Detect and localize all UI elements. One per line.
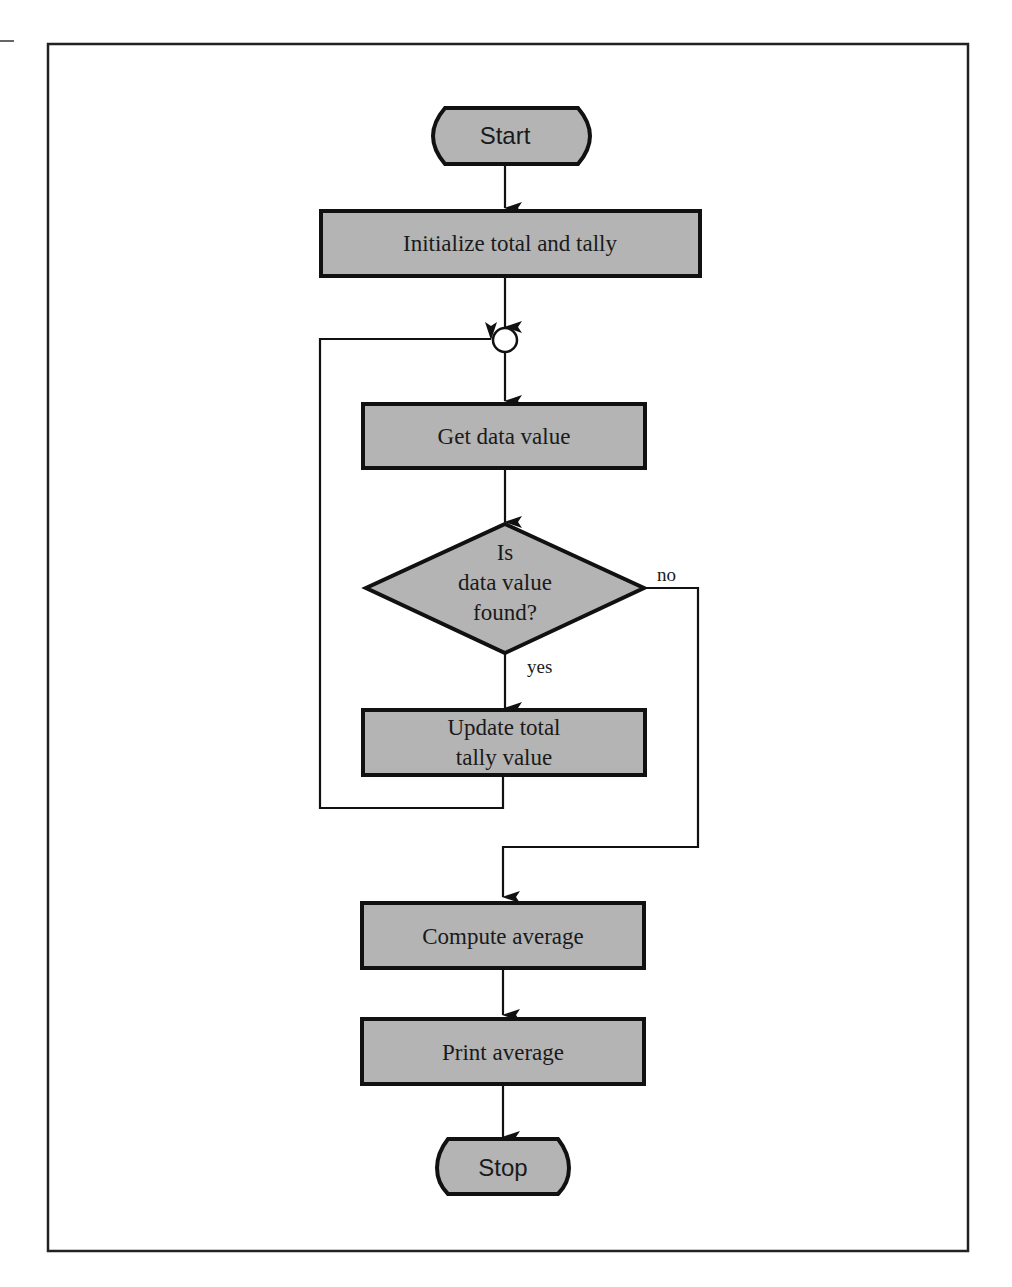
no-label: no — [657, 564, 676, 585]
start-label: Start — [480, 122, 531, 149]
decision-data-found: Is data value found? — [366, 524, 644, 653]
update-line-1: Update total — [447, 715, 560, 740]
decision-line-3: found? — [473, 600, 537, 625]
get-data-label: Get data value — [438, 424, 571, 449]
update-line-2: tally value — [456, 745, 552, 770]
stop-terminal: Stop — [437, 1139, 569, 1194]
compute-average-process: Compute average — [362, 903, 644, 968]
flowchart-diagram: Start Initialize total and tally Get dat… — [0, 0, 1012, 1287]
initialize-process: Initialize total and tally — [321, 211, 700, 276]
decision-line-1: Is — [497, 540, 514, 565]
stop-label: Stop — [478, 1154, 527, 1181]
compute-average-label: Compute average — [422, 924, 584, 949]
get-data-process: Get data value — [363, 404, 645, 468]
decision-line-2: data value — [458, 570, 552, 595]
print-average-process: Print average — [362, 1019, 644, 1084]
print-average-label: Print average — [442, 1040, 564, 1065]
yes-label: yes — [527, 656, 552, 677]
junction-connector — [493, 328, 517, 352]
update-process: Update total tally value — [363, 710, 645, 775]
initialize-label: Initialize total and tally — [403, 231, 617, 256]
start-terminal: Start — [433, 108, 590, 164]
